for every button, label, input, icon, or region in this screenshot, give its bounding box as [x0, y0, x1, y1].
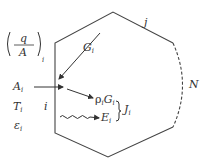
emission-wavy-arrow	[60, 116, 99, 119]
surface-i-label: i	[44, 101, 48, 112]
flux-subscript: i	[42, 57, 44, 64]
flux-paren-right	[38, 32, 41, 56]
radiosity-label: Ji	[124, 104, 131, 117]
enclosure-wall	[55, 12, 173, 157]
radiosity-brace	[116, 101, 121, 121]
irradiation-arrow	[59, 33, 100, 79]
area-label: Ai	[13, 81, 23, 94]
surface-n-dashed	[173, 43, 183, 127]
emissivity-label: εi	[14, 120, 22, 133]
surface-n-label: N	[189, 79, 199, 90]
enclosure-diagram	[0, 0, 211, 161]
flux-paren-left	[8, 32, 11, 56]
flux-numerator: q	[20, 33, 27, 44]
temperature-label: Ti	[13, 101, 23, 114]
irradiation-label: Gi	[83, 42, 94, 55]
reflected-arrow	[67, 89, 93, 98]
flux-denominator: A	[19, 47, 27, 58]
emitted-label: Ei	[101, 112, 111, 125]
surface-j-label: j	[144, 17, 147, 28]
reflected-label: ρiGi	[95, 94, 115, 107]
